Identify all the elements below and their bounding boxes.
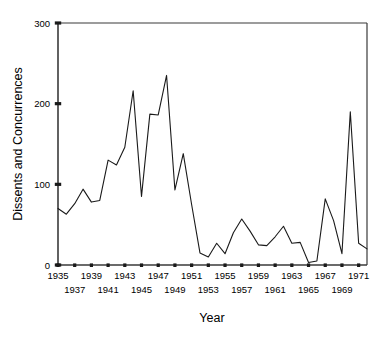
- x-tick-label-bottom: 1961: [265, 284, 286, 295]
- chart-figure: 0100200300 19351939194319471951195519591…: [0, 0, 384, 344]
- y-tick-mark: [55, 102, 61, 105]
- x-tick-label-top: 1943: [114, 270, 135, 281]
- x-tick-label-bottom: 1957: [231, 284, 252, 295]
- y-tick-label: 300: [34, 18, 50, 29]
- y-tick-mark: [55, 183, 61, 186]
- x-tick-label-bottom: 1953: [198, 284, 219, 295]
- x-tick-label-bottom: 1937: [64, 284, 85, 295]
- x-tick-mark: [307, 263, 310, 267]
- x-tick-mark: [73, 263, 76, 267]
- x-tick-label-top: 1967: [315, 270, 336, 281]
- x-tick-label-top: 1971: [348, 270, 369, 281]
- x-tick-label-top: 1939: [81, 270, 102, 281]
- x-tick-label-bottom: 1965: [298, 284, 319, 295]
- x-tick-label-top: 1947: [148, 270, 169, 281]
- x-tick-label-bottom: 1969: [331, 284, 352, 295]
- x-tick-label-top: 1955: [214, 270, 235, 281]
- x-tick-mark: [240, 263, 243, 267]
- x-tick-mark: [223, 263, 226, 267]
- x-tick-mark: [340, 263, 343, 267]
- x-tick-mark: [123, 263, 126, 267]
- x-axis-title: Year: [199, 311, 224, 325]
- x-tick-mark: [274, 263, 277, 267]
- x-tick-mark: [290, 263, 293, 267]
- x-tick-mark: [257, 263, 260, 267]
- x-tick-mark: [324, 263, 327, 267]
- x-tick-mark: [107, 263, 110, 267]
- x-tick-mark: [157, 263, 160, 267]
- x-tick-label-top: 1963: [281, 270, 302, 281]
- y-tick-label: 100: [34, 179, 50, 190]
- x-tick-label-bottom: 1941: [98, 284, 119, 295]
- y-tick-label: 200: [34, 98, 50, 109]
- x-tick-mark: [173, 263, 176, 267]
- x-tick-mark: [207, 263, 210, 267]
- x-tick-label-bottom: 1949: [164, 284, 185, 295]
- x-axis-tick-labels-bottom-row: 193719411945194919531957196119651969: [64, 284, 352, 295]
- x-tick-label-top: 1959: [248, 270, 269, 281]
- x-tick-label-bottom: 1945: [131, 284, 152, 295]
- x-tick-label-top: 1935: [47, 270, 68, 281]
- y-axis-title: Dissents and Concurrences: [11, 67, 25, 221]
- x-tick-mark: [140, 263, 143, 267]
- y-tick-label: 0: [45, 260, 50, 271]
- x-tick-mark: [190, 263, 193, 267]
- x-tick-mark: [357, 263, 360, 267]
- line-chart: 0100200300 19351939194319471951195519591…: [0, 0, 384, 344]
- x-tick-mark: [56, 263, 59, 267]
- x-tick-label-top: 1951: [181, 270, 202, 281]
- x-tick-mark: [90, 263, 93, 267]
- y-tick-mark: [55, 21, 61, 24]
